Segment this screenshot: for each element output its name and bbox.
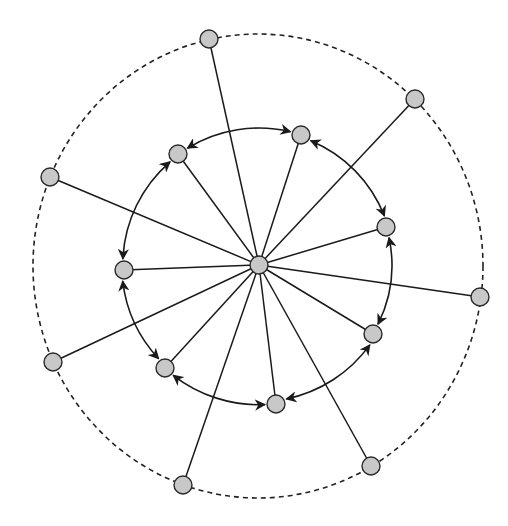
spoke-i3 <box>259 265 373 334</box>
inner-node-i3 <box>364 325 382 343</box>
spoke-i5 <box>165 265 259 368</box>
spoke-o4 <box>259 265 371 466</box>
inner-node-i5 <box>156 359 174 377</box>
spoke-o5 <box>183 265 259 485</box>
ring-link-i2-i3 <box>378 238 392 325</box>
inner-node-i2 <box>377 218 395 236</box>
spoke-o6 <box>53 265 259 362</box>
ring-link-i7-i1 <box>187 128 290 148</box>
inner-node-i6 <box>115 261 133 279</box>
network-diagram <box>0 0 508 526</box>
outer-node-o6 <box>44 353 62 371</box>
outer-node-o5 <box>174 476 192 494</box>
outer-node-o1 <box>200 30 218 48</box>
spoke-o3 <box>259 265 480 297</box>
outer-node-o3 <box>471 288 489 306</box>
spoke-i6 <box>124 265 259 270</box>
inner-node-i7 <box>169 145 187 163</box>
spoke-i2 <box>259 227 386 265</box>
ring-link-i5-i6 <box>123 281 159 359</box>
spoke-i4 <box>259 265 276 404</box>
outer-node-o7 <box>41 168 59 186</box>
center-node-hub <box>250 256 268 274</box>
outer-node-o4 <box>362 457 380 475</box>
inner-node-i4 <box>267 395 285 413</box>
inner-node-i1 <box>292 126 310 144</box>
outer-node-o2 <box>406 90 424 108</box>
ring-link-i3-i4 <box>286 345 369 399</box>
spoke-i1 <box>259 135 301 265</box>
spoke-o2 <box>259 99 415 265</box>
ring-link-i1-i2 <box>311 141 385 216</box>
